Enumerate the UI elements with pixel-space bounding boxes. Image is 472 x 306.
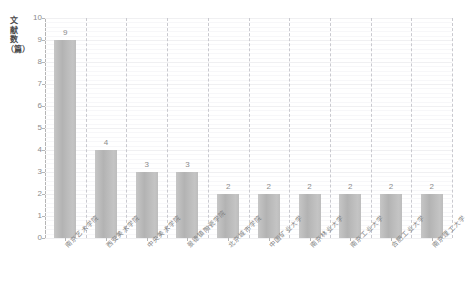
bar[interactable] [136, 172, 158, 238]
category-separator [249, 18, 250, 238]
bar-value-label: 3 [175, 161, 199, 169]
bar[interactable] [380, 194, 402, 238]
bar-value-label: 3 [135, 161, 159, 169]
bar[interactable] [176, 172, 198, 238]
x-tick-mark [269, 238, 270, 241]
y-tick-label: 1 [2, 212, 42, 220]
category-separator [289, 18, 290, 238]
y-tick-label: 6 [2, 102, 42, 110]
bar-value-label: 2 [338, 183, 362, 191]
y-tick-label: 0 [2, 234, 42, 242]
x-tick-mark [65, 238, 66, 241]
y-tick-label: 2 [2, 190, 42, 198]
y-tick-label: 5 [2, 124, 42, 132]
bar-value-label: 2 [298, 183, 322, 191]
x-tick-mark [187, 238, 188, 241]
y-tick-label: 7 [2, 80, 42, 88]
y-tick-label: 10 [2, 14, 42, 22]
bar-value-label: 2 [257, 183, 281, 191]
category-separator [411, 18, 412, 238]
bar-chart: 文献数（篇） 012345678910 9433222222 南京艺术学院西安美… [0, 0, 472, 306]
y-axis-tick-labels: 012345678910 [0, 18, 42, 238]
category-separator [167, 18, 168, 238]
x-tick-mark [228, 238, 229, 241]
bar[interactable] [95, 150, 117, 238]
category-separator [330, 18, 331, 238]
y-tick-label: 8 [2, 58, 42, 66]
bar[interactable] [54, 40, 76, 238]
y-tick-label: 9 [2, 36, 42, 44]
category-separator [126, 18, 127, 238]
bar-value-label: 2 [420, 183, 444, 191]
bar[interactable] [421, 194, 443, 238]
x-tick-mark [310, 238, 311, 241]
x-tick-mark [350, 238, 351, 241]
y-tick-label: 4 [2, 146, 42, 154]
bar[interactable] [339, 194, 361, 238]
bar[interactable] [258, 194, 280, 238]
bar-value-label: 4 [94, 139, 118, 147]
x-tick-mark [432, 238, 433, 241]
category-separator [86, 18, 87, 238]
x-tick-mark [147, 238, 148, 241]
x-tick-mark [391, 238, 392, 241]
bar[interactable] [299, 194, 321, 238]
category-separator [208, 18, 209, 238]
bar[interactable] [217, 194, 239, 238]
plot-area: 9433222222 [45, 18, 452, 238]
bar-value-label: 2 [216, 183, 240, 191]
category-separator [452, 18, 453, 238]
x-tick-mark [106, 238, 107, 241]
bar-value-label: 2 [379, 183, 403, 191]
bar-value-label: 9 [53, 29, 77, 37]
category-separator [371, 18, 372, 238]
y-tick-label: 3 [2, 168, 42, 176]
